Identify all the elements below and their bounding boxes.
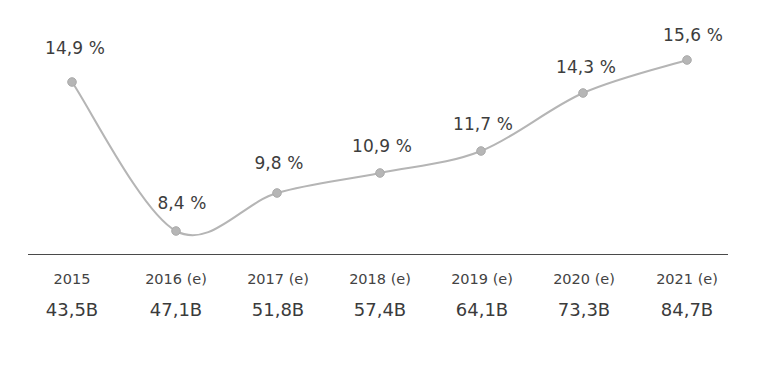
- data-point-label: 14,9 %: [45, 38, 105, 58]
- data-point-marker: [477, 147, 486, 156]
- category-amount-label: 73,3B: [529, 301, 639, 320]
- data-point-marker: [273, 189, 282, 198]
- category-year-label: 2017 (e): [223, 272, 333, 287]
- x-axis-line: [28, 254, 728, 255]
- category-amount-label: 84,7B: [632, 301, 742, 320]
- category-amount-label: 57,4B: [325, 301, 435, 320]
- x-axis-category-2019-e-: 2019 (e)64,1B: [427, 272, 537, 320]
- data-point-label: 8,4 %: [157, 193, 206, 213]
- category-year-label: 2019 (e): [427, 272, 537, 287]
- line-chart: 14,9 %8,4 %9,8 %10,9 %11,7 %14,3 %15,6 %…: [0, 0, 764, 365]
- data-point-marker: [172, 227, 181, 236]
- data-point-label: 15,6 %: [663, 25, 723, 45]
- category-year-label: 2020 (e): [529, 272, 639, 287]
- data-point-marker: [683, 56, 692, 65]
- category-year-label: 2021 (e): [632, 272, 742, 287]
- data-point-marker: [376, 169, 385, 178]
- data-point-marker: [579, 89, 588, 98]
- x-axis-category-2015: 201543,5B: [17, 272, 127, 320]
- category-year-label: 2018 (e): [325, 272, 435, 287]
- data-point-marker: [68, 78, 77, 87]
- data-point-label: 10,9 %: [352, 136, 412, 156]
- x-axis-category-2020-e-: 2020 (e)73,3B: [529, 272, 639, 320]
- category-year-label: 2015: [17, 272, 127, 287]
- category-amount-label: 64,1B: [427, 301, 537, 320]
- x-axis-category-2016-e-: 2016 (e)47,1B: [121, 272, 231, 320]
- data-point-label: 11,7 %: [453, 114, 513, 134]
- x-axis-category-2021-e-: 2021 (e)84,7B: [632, 272, 742, 320]
- category-amount-label: 47,1B: [121, 301, 231, 320]
- x-axis-category-2018-e-: 2018 (e)57,4B: [325, 272, 435, 320]
- category-year-label: 2016 (e): [121, 272, 231, 287]
- category-amount-label: 51,8B: [223, 301, 333, 320]
- x-axis-category-2017-e-: 2017 (e)51,8B: [223, 272, 333, 320]
- data-point-label: 9,8 %: [254, 153, 303, 173]
- category-amount-label: 43,5B: [17, 301, 127, 320]
- data-point-label: 14,3 %: [556, 57, 616, 77]
